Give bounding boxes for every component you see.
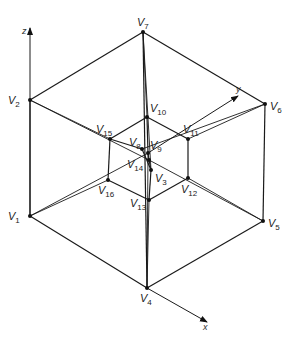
vertex-v6 xyxy=(263,102,267,106)
vertex-v2 xyxy=(28,98,32,102)
vertex-label-v8: V8 xyxy=(129,136,141,151)
vertex-label-v6: V6 xyxy=(270,100,282,115)
vertex-v13 xyxy=(147,198,151,202)
vertex-label-v15: V15 xyxy=(96,123,113,138)
vertex-label-v4: V4 xyxy=(140,292,152,307)
edge-v6-v5 xyxy=(263,104,265,221)
vertex-label-v10: V10 xyxy=(150,102,167,117)
coordinate-axes: zyx xyxy=(21,26,241,332)
edge-v6-v11 xyxy=(188,104,265,139)
z-axis-label: z xyxy=(21,26,27,36)
vertex-label-v7: V7 xyxy=(137,16,149,31)
vertex-v16 xyxy=(106,178,110,182)
edge-v10-v11 xyxy=(147,117,188,139)
edge-v7-v6 xyxy=(143,32,265,104)
vertex-v9 xyxy=(146,151,150,155)
edge-v13-v3 xyxy=(149,170,151,200)
vertex-v4 xyxy=(145,286,149,290)
vertex-v12 xyxy=(186,176,190,180)
edge-v2-v14 xyxy=(30,100,149,160)
vertex-v3 xyxy=(149,168,153,172)
vertex-label-v2: V2 xyxy=(8,94,20,109)
x-axis-label: x xyxy=(202,322,208,332)
vertex-label-v14: V14 xyxy=(127,158,144,173)
edge-v1-v4 xyxy=(30,216,147,288)
vertex-v5 xyxy=(261,219,265,223)
vertex-label-v13: V13 xyxy=(130,197,147,212)
vertex-v1 xyxy=(28,214,32,218)
vertex-label-v5: V5 xyxy=(268,217,280,232)
vertex-label-v3: V3 xyxy=(155,172,167,187)
vertex-label-v9: V9 xyxy=(150,139,162,154)
x-axis xyxy=(147,288,207,322)
edge-v2-v7 xyxy=(30,32,143,100)
vertex-v10 xyxy=(145,115,149,119)
vertex-v14 xyxy=(147,158,151,162)
edge-v1-v16 xyxy=(30,180,108,216)
edge-v4-v5 xyxy=(147,221,263,288)
vertex-label-v16: V16 xyxy=(98,184,115,199)
tesseract-diagram: zyx V1V2V3V4V5V6V7V8V9V10V11V12V13V14V15… xyxy=(0,0,294,348)
vertex-label-v1: V1 xyxy=(8,210,20,225)
